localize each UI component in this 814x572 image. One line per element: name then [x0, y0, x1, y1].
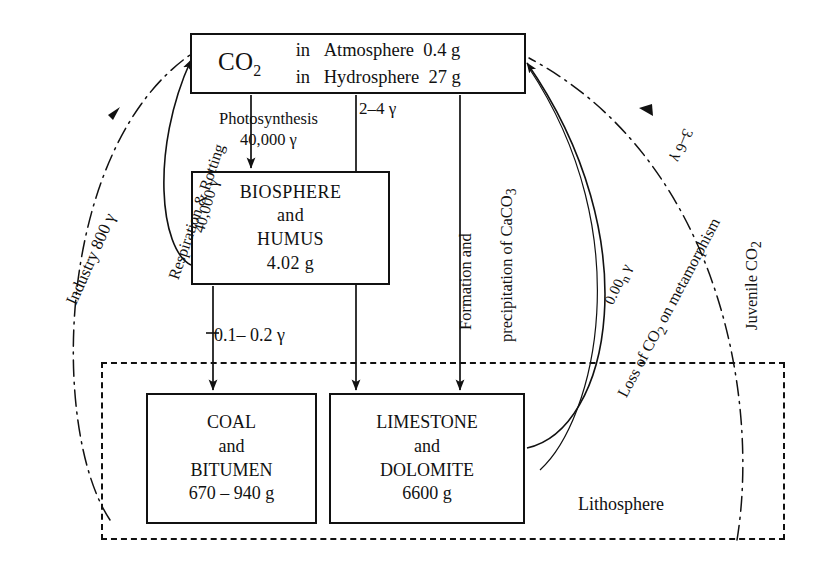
coal-reservoir-box: COAL and BITUMEN 670 – 940 g: [146, 393, 317, 524]
co2-atmosphere-prefix: in: [296, 37, 324, 63]
arrowhead-industry: [108, 107, 120, 120]
industry-label: Industry 800 γ: [62, 210, 120, 308]
lithosphere-label: Lithosphere: [578, 494, 664, 515]
biosphere-value: 4.02 g: [267, 252, 314, 276]
biosphere-line-3: HUMUS: [257, 228, 324, 252]
coal-value: 670 – 940 g: [189, 482, 275, 506]
co2-reservoir-values: inAtmosphere 0.4 g inHydrosphere 27 g: [296, 37, 455, 90]
limestone-value: 6600 g: [402, 482, 452, 506]
co2-hydrosphere-value: 27 g: [428, 64, 454, 90]
coal-line-2: and: [219, 435, 245, 459]
co2-hydrosphere-row: inHydrosphere 27 g: [296, 64, 455, 90]
co2-atmosphere-value: 0.4 g: [423, 37, 449, 63]
photosynthesis-label: Photosynthesis 40,000 γ: [219, 108, 318, 151]
photosynthesis-name: Photosynthesis: [219, 108, 318, 129]
diagram-canvas: CO2 inAtmosphere 0.4 g inHydrosphere 27 …: [0, 0, 814, 572]
biosphere-line-2: and: [277, 204, 304, 228]
juvenile-co2-value-label: 3–6 γ: [668, 126, 697, 164]
juvenile-co2-label: Juvenile CO2: [742, 241, 765, 330]
biosphere-reservoir-box: BIOSPHERE and HUMUS 4.02 g: [191, 171, 390, 285]
biosphere-line-1: BIOSPHERE: [240, 181, 342, 205]
limestone-line-2: and: [414, 435, 440, 459]
formation-label: Formation and: [456, 233, 476, 330]
co2-hydrosphere-prefix: in: [296, 64, 324, 90]
co2-formula: CO2: [218, 45, 262, 81]
limestone-line-1: LIMESTONE: [376, 411, 478, 435]
limestone-reservoir-box: LIMESTONE and DOLOMITE 6600 g: [329, 393, 525, 524]
limestone-line-3: DOLOMITE: [380, 459, 474, 483]
co2-hydrosphere-label: Hydrosphere: [324, 67, 420, 87]
arrowhead-juvenile: [639, 104, 653, 116]
photosynthesis-value: 40,000 γ: [219, 129, 318, 150]
coal-line-3: BITUMEN: [191, 459, 273, 483]
biosphere-to-coal-label: 0.1– 0.2 γ: [214, 325, 285, 346]
metamorphism-value-label: 0.00n γ: [601, 261, 639, 309]
coal-line-1: COAL: [207, 411, 256, 435]
co2-atmosphere-label: Atmosphere: [324, 40, 414, 60]
precipitation-caco3-label: precipitation of CaCO3: [497, 188, 520, 342]
co2-to-limestone-label: 2–4 γ: [359, 99, 396, 119]
co2-reservoir-box: CO2 inAtmosphere 0.4 g inHydrosphere 27 …: [190, 33, 526, 94]
co2-atmosphere-row: inAtmosphere 0.4 g: [296, 37, 455, 63]
